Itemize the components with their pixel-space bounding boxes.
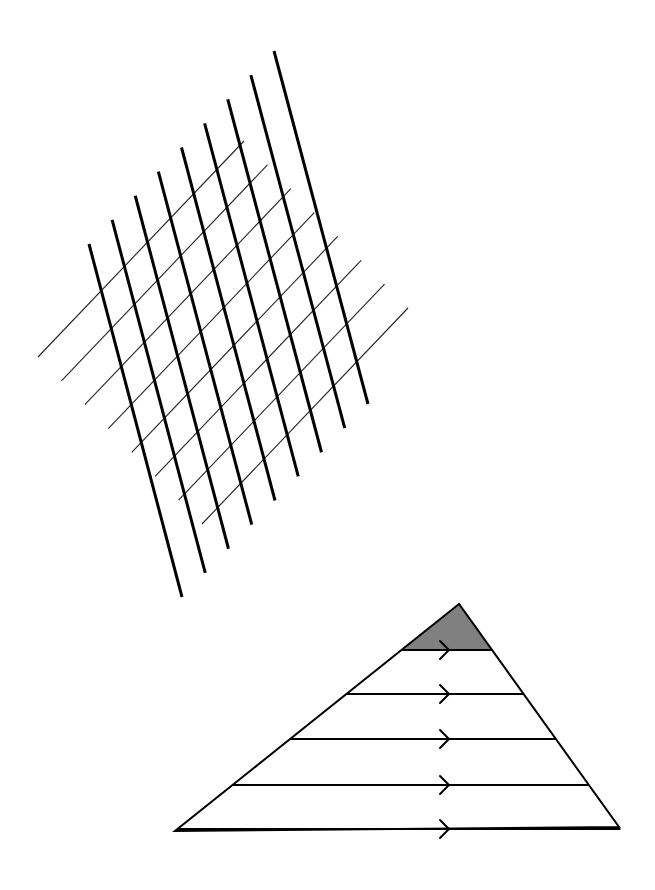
thin-line: [179, 284, 385, 500]
parallel-transversals: [178, 650, 621, 829]
thick-line: [135, 196, 228, 549]
diagram-canvas: [0, 0, 655, 890]
thick-parallel-lines: [89, 51, 368, 597]
thick-line: [112, 220, 205, 573]
triangle-outline: [175, 604, 619, 831]
thick-line: [89, 244, 182, 597]
parallel-line-grid: [38, 51, 408, 597]
shaded-top-triangle: [401, 604, 492, 650]
triangle-with-parallel-lines: [175, 604, 620, 838]
